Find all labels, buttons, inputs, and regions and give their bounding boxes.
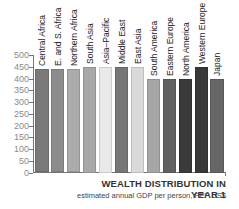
category-label: E. and S. Africa <box>53 8 63 67</box>
y-tick-mark <box>29 55 33 56</box>
y-tick-mark <box>29 114 33 115</box>
category-label: South America <box>149 20 159 75</box>
category-label: East Asia <box>133 28 143 63</box>
y-tick-label: 450 <box>0 63 29 72</box>
y-tick-mark <box>29 126 33 127</box>
y-tick-label: 300 <box>0 98 29 107</box>
category-label: Middle East <box>117 19 127 63</box>
bar <box>147 79 161 173</box>
category-label: North America <box>181 22 191 76</box>
bar <box>67 69 81 172</box>
bar <box>83 67 97 173</box>
y-tick-label: 350 <box>0 86 29 95</box>
y-tick-label: 500 <box>0 51 29 60</box>
y-tick-mark <box>29 137 33 138</box>
bar <box>163 79 177 173</box>
bar <box>195 67 209 173</box>
category-label: Western Europe <box>197 2 207 63</box>
y-axis <box>33 55 34 173</box>
category-label: Japan <box>212 52 222 75</box>
bar <box>210 79 224 173</box>
chart-subtitle: estimated annual GDP per person, PPP US$ <box>60 191 226 200</box>
bar <box>35 69 49 172</box>
category-label: South Asia <box>85 23 95 64</box>
category-label: Central Africa <box>37 15 47 66</box>
y-tick-mark <box>29 79 33 80</box>
bar <box>131 67 145 173</box>
y-tick-label: 0 <box>0 169 29 178</box>
y-tick-mark <box>29 67 33 68</box>
y-tick-mark <box>29 161 33 162</box>
y-tick-mark <box>29 173 33 174</box>
y-tick-label: 250 <box>0 110 29 119</box>
y-tick-label: 150 <box>0 133 29 142</box>
category-label: Asia–Pacific <box>101 17 111 63</box>
wealth-distribution-chart: 050100150200250300350400450500 Central A… <box>0 0 239 209</box>
category-label: Northern Africa <box>69 9 79 66</box>
bar <box>99 67 113 173</box>
category-label: Eastern Europe <box>165 16 175 75</box>
y-tick-mark <box>29 90 33 91</box>
y-tick-mark <box>29 102 33 103</box>
y-tick-label: 50 <box>0 157 29 166</box>
y-tick-label: 200 <box>0 122 29 131</box>
y-tick-mark <box>29 149 33 150</box>
y-tick-label: 100 <box>0 145 29 154</box>
x-axis-end-tick <box>225 172 226 176</box>
bar <box>115 67 129 173</box>
y-tick-label: 400 <box>0 75 29 84</box>
bar <box>179 79 193 173</box>
bar <box>51 69 65 172</box>
